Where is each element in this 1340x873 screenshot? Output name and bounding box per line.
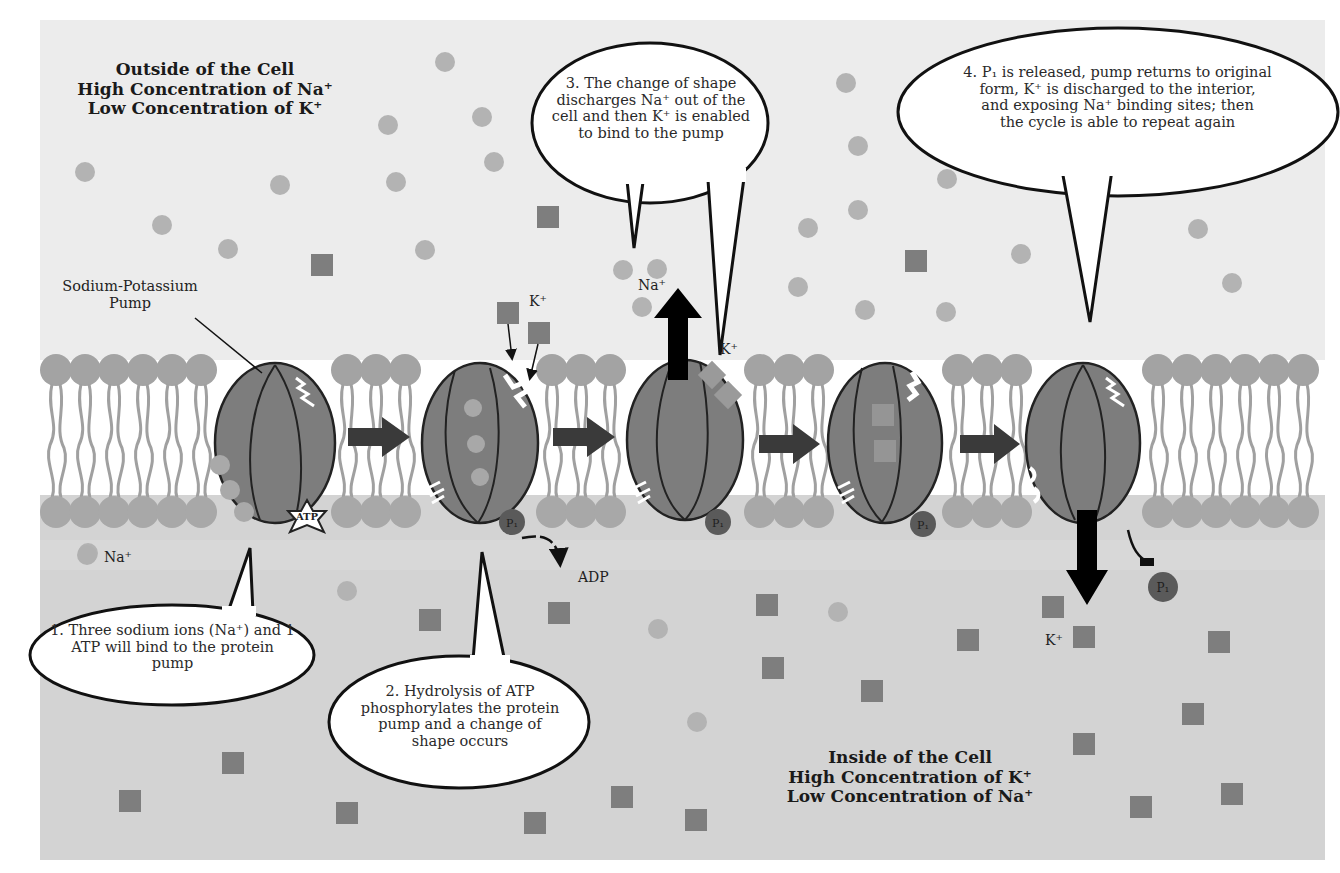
atp-label: ATP — [295, 511, 319, 522]
inside-k-concentration: High Concentration of K⁺ — [760, 768, 1060, 788]
k-label-step4: K⁺ — [1045, 632, 1063, 648]
inside-heading: Inside of the Cell High Concentration of… — [760, 748, 1060, 807]
pump-label: Sodium-Potassium Pump — [45, 278, 215, 311]
outside-k-concentration: Low Concentration of K⁺ — [60, 99, 350, 119]
svg-text:P₁: P₁ — [917, 519, 929, 532]
na-legend-icon — [77, 545, 97, 565]
svg-text:P₁: P₁ — [1157, 581, 1170, 595]
inside-na-concentration: Low Concentration of Na⁺ — [760, 787, 1060, 807]
step-4-text: 4. P₁ is released, pump returns to origi… — [905, 64, 1330, 131]
sodium-potassium-pump-diagram: ATP P₁ P₁ — [0, 0, 1340, 873]
na-legend-label: Na⁺ — [104, 549, 132, 565]
outside-title: Outside of the Cell — [60, 60, 350, 80]
outside-heading: Outside of the Cell High Concentration o… — [60, 60, 350, 119]
svg-text:P₁: P₁ — [506, 517, 518, 530]
k-label-step3: K⁺ — [720, 341, 738, 357]
k-label-step2: K⁺ — [529, 293, 547, 309]
na-label-step3: Na⁺ — [638, 277, 666, 293]
step-1-text: 1. Three sodium ions (Na⁺) and 1 ATP wil… — [35, 622, 310, 672]
step-3-text: 3. The change of shape discharges Na⁺ ou… — [535, 75, 767, 142]
inside-title: Inside of the Cell — [760, 748, 1060, 768]
step-2-text: 2. Hydrolysis of ATP phosphorylates the … — [335, 683, 585, 750]
svg-text:P₁: P₁ — [712, 517, 724, 530]
adp-label: ADP — [577, 569, 609, 585]
outside-na-concentration: High Concentration of Na⁺ — [60, 80, 350, 100]
